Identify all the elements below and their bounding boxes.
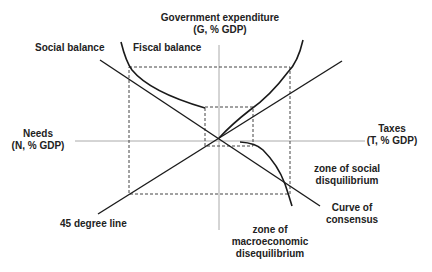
vertical-axis-label: Government expenditure (G, % GDP) <box>150 12 290 36</box>
curve-of-consensus <box>240 142 292 206</box>
zone-macro-line3: disequilibrium <box>230 248 310 260</box>
taxes-axis-label-line1: Taxes <box>362 123 422 135</box>
fiscal-balance-label: Fiscal balance <box>133 42 201 54</box>
vertical-axis-label-line1: Government expenditure <box>150 12 290 24</box>
needs-axis-label-line2: (N, % GDP) <box>8 140 68 152</box>
zone-social-line1: zone of social <box>307 163 387 175</box>
consensus-line2: consensus <box>322 214 382 226</box>
zone-macro-line1: zone of <box>230 224 310 236</box>
zone-macro-line2: macroeconomic <box>230 236 310 248</box>
taxes-axis-label: Taxes (T, % GDP) <box>362 123 422 147</box>
zone-macro-label: zone of macroeconomic disequilibrium <box>230 224 310 260</box>
taxes-axis-label-line2: (T, % GDP) <box>362 135 422 147</box>
vertical-axis-label-line2: (G, % GDP) <box>150 24 290 36</box>
social-balance-line <box>100 60 320 206</box>
social-balance-label: Social balance <box>35 42 104 54</box>
needs-axis-label-line1: Needs <box>8 128 68 140</box>
zone-social-label: zone of social disquilibrium <box>307 163 387 187</box>
consensus-line1: Curve of <box>322 202 382 214</box>
forty-five-degree-label: 45 degree line <box>60 218 127 230</box>
zone-social-line2: disquilibrium <box>307 175 387 187</box>
outer-dashed-rect <box>129 67 290 194</box>
needs-axis-label: Needs (N, % GDP) <box>8 128 68 152</box>
curve-of-consensus-label: Curve of consensus <box>322 202 382 226</box>
